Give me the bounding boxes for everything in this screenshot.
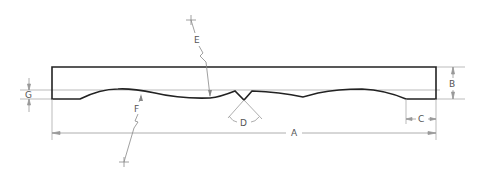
leader-f-arrow [139,94,143,101]
label-g: G [25,90,32,100]
reference-lines [20,67,465,99]
label-b: B [449,79,455,89]
label-e: E [194,35,200,45]
label-a: A [291,128,298,138]
label-f: F [134,104,139,114]
leader-e [186,15,210,96]
leader-e-arrow [208,90,212,97]
technical-drawing: A B C D E F [0,0,477,174]
label-d: D [240,118,247,128]
label-c: C [418,114,424,124]
board-outline [52,67,436,100]
dimension-a [52,132,436,135]
